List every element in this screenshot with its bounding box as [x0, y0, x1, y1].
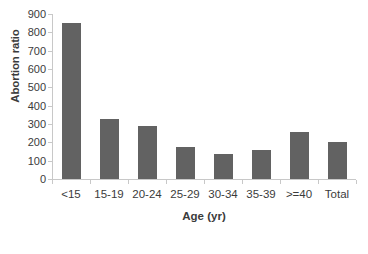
y-axis-tick-label: 500: [18, 82, 46, 93]
bar: [62, 23, 81, 179]
y-axis-tick-label: 900: [18, 9, 46, 20]
y-axis-tick-mark: [48, 124, 52, 125]
x-axis-tick-mark: [204, 180, 205, 184]
bar: [214, 154, 233, 179]
y-axis-tick-label: 600: [18, 64, 46, 75]
bar-chart: Abortion ratio 9008007006005004003002001…: [0, 0, 368, 254]
x-axis-tick-mark: [242, 180, 243, 184]
y-axis-tick-mark: [48, 51, 52, 52]
y-axis-tick-label: 0: [18, 174, 46, 185]
bar: [100, 119, 119, 180]
bar: [138, 126, 157, 179]
y-axis-tick-label: 800: [18, 27, 46, 38]
x-axis-tick-mark: [90, 180, 91, 184]
y-axis-tick-mark: [48, 87, 52, 88]
y-axis-tick-mark: [48, 32, 52, 33]
x-axis-tick-mark: [128, 180, 129, 184]
y-axis-tick-mark: [48, 161, 52, 162]
x-axis-tick-mark: [280, 180, 281, 184]
bar: [176, 147, 195, 179]
y-axis-tick-label: 400: [18, 100, 46, 111]
bar: [290, 132, 309, 179]
y-axis-tick-mark: [48, 142, 52, 143]
plot-area: [52, 14, 356, 179]
y-axis-tick-label: 100: [18, 155, 46, 166]
y-axis-tick-mark: [48, 14, 52, 15]
y-axis-tick-mark: [48, 106, 52, 107]
x-axis-tick-mark: [318, 180, 319, 184]
y-axis-tick-mark: [48, 69, 52, 70]
x-axis-tick-label: Total: [315, 188, 359, 201]
x-axis-tick-mark: [166, 180, 167, 184]
bar: [328, 142, 347, 179]
x-axis-tick-labels: <1515-1920-2425-2930-3435-39>=40Total: [52, 188, 356, 206]
x-axis-tick-mark: [356, 180, 357, 184]
x-axis-tick-mark: [52, 180, 53, 184]
y-axis-tick-label: 700: [18, 45, 46, 56]
y-axis-tick-labels: 9008007006005004003002001000: [18, 0, 46, 254]
y-axis-tick-label: 300: [18, 119, 46, 130]
x-axis-title: Age (yr): [52, 210, 356, 222]
bar: [252, 150, 271, 179]
y-axis-tick-label: 200: [18, 137, 46, 148]
y-axis-line: [52, 14, 53, 180]
